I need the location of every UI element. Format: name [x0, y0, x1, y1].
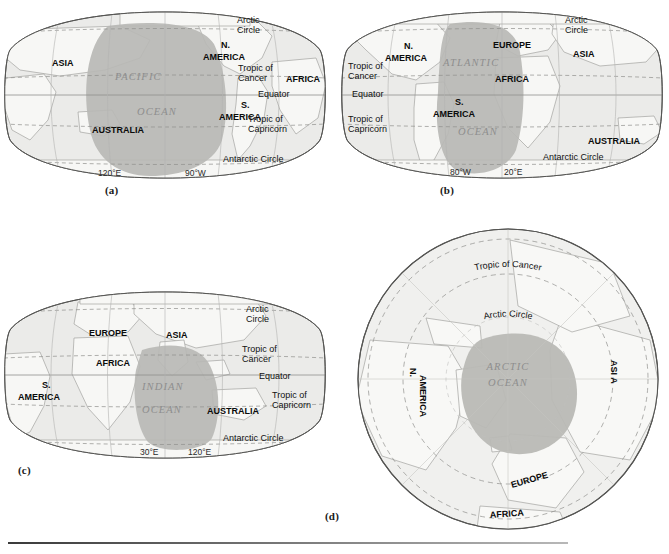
geoline-label-capricorn-1: Tropic of: [348, 114, 383, 124]
geoline-label-arctic-2: Circle: [237, 25, 260, 35]
longitude-label-1: 80°W: [450, 167, 471, 177]
geoline-label-cancer-1: Tropic of: [242, 344, 277, 354]
figure-root: PACIFIC OCEAN ASIA N. AMERICA AFRICA S. …: [0, 0, 669, 554]
ocean-name-line2: OCEAN: [458, 126, 498, 137]
panel-c-map: INDIAN OCEAN EUROPE ASIA AFRICA S. AMERI…: [0, 280, 330, 480]
longitude-label-1: 120°E: [98, 168, 122, 178]
geoline-label-capricorn-2: Capricorn: [348, 124, 387, 134]
panel-d-map: Tropic of Cancer Arctic Circle ARCTIC OC…: [330, 220, 669, 540]
longitude-label-2: 120°E: [188, 447, 212, 457]
continent-label-asia: ASIA: [166, 330, 188, 340]
continent-label-s: S.: [42, 380, 51, 390]
continent-label-australia: AUSTRALIA: [588, 136, 640, 146]
panel-caption-c: (c): [18, 464, 31, 476]
continent-label-europe: EUROPE: [89, 328, 127, 338]
geoline-label-arctic-1: Arctic: [237, 15, 260, 25]
highlight-pacific-ocean: [86, 23, 226, 176]
panel-caption-b: (b): [440, 184, 454, 196]
ocean-name-line1: INDIAN: [141, 381, 184, 392]
geoline-label-antarctic: Antarctic Circle: [543, 152, 604, 162]
highlight-indian-ocean: [135, 346, 219, 450]
geoline-label-equator: Equator: [352, 89, 384, 99]
longitude-label-2: 90°W: [185, 168, 206, 178]
continent-label-s: S.: [455, 97, 464, 107]
panel-a-map: PACIFIC OCEAN ASIA N. AMERICA AFRICA S. …: [0, 0, 330, 200]
continent-label-australia: AUSTRALIA: [92, 125, 144, 135]
continent-label-africa: AFRICA: [495, 74, 529, 84]
geoline-label-arctic-2: Circle: [565, 25, 588, 35]
continent-label-europe: EUROPE: [493, 40, 531, 50]
geoline-label-capricorn-2: Capricorn: [272, 400, 311, 410]
geoline-label-capricorn-2: Capricorn: [248, 124, 287, 134]
continent-label-n: N.: [221, 40, 230, 50]
ocean-name-line1: PACIFIC: [114, 71, 162, 82]
geoline-label-arctic-2: Circle: [246, 314, 269, 324]
panel-caption-a: (a): [105, 184, 118, 196]
geoline-label-equator: Equator: [258, 89, 290, 99]
longitude-label-2: 20°E: [504, 167, 523, 177]
continent-label-america-north: AMERICA: [418, 375, 428, 417]
geoline-label-equator: Equator: [259, 371, 291, 381]
longitude-label-1: 30°E: [140, 447, 159, 457]
continent-label-america-north: AMERICA: [385, 53, 427, 63]
continent-label-asia: ASIA: [52, 58, 74, 68]
ocean-name-line2: OCEAN: [142, 404, 182, 415]
ocean-name-line1: ATLANTIC: [442, 57, 499, 68]
panel-caption-d: (d): [325, 510, 339, 522]
panel-d-arctic: Tropic of Cancer Arctic Circle ARCTIC OC…: [330, 220, 669, 540]
ocean-name-line1: ARCTIC: [486, 361, 530, 372]
geoline-label-cancer-2: Cancer: [242, 354, 271, 364]
continent-label-australia: AUSTRALIA: [207, 406, 259, 416]
geoline-label-capricorn-1: Tropic of: [248, 114, 283, 124]
panel-a-pacific: PACIFIC OCEAN ASIA N. AMERICA AFRICA S. …: [0, 0, 330, 200]
continent-label-america-south: AMERICA: [433, 109, 475, 119]
continent-label-n: N.: [408, 368, 418, 377]
geoline-label-antarctic: Antarctic Circle: [223, 154, 284, 164]
figure-bottom-rule: [8, 542, 568, 544]
continent-label-africa: AFRICA: [96, 358, 130, 368]
continent-label-asia: ASI A: [609, 360, 619, 384]
ocean-name-line2: OCEAN: [137, 106, 177, 117]
continent-label-asia: ASIA: [573, 49, 595, 59]
panel-c-indian: INDIAN OCEAN EUROPE ASIA AFRICA S. AMERI…: [0, 280, 330, 480]
panel-b-atlantic: ATLANTIC OCEAN N. AMERICA EUROPE ASIA AF…: [330, 0, 669, 200]
continent-label-africa: AFRICA: [286, 74, 320, 84]
ocean-name-line2: OCEAN: [488, 377, 528, 388]
geoline-label-capricorn-1: Tropic of: [272, 390, 307, 400]
continent-label-america-south: AMERICA: [18, 392, 60, 402]
panel-b-map: ATLANTIC OCEAN N. AMERICA EUROPE ASIA AF…: [330, 0, 669, 200]
geoline-label-arctic-1: Arctic: [565, 15, 588, 25]
geoline-label-cancer-1: Tropic of: [348, 61, 383, 71]
geoline-label-cancer-1: Tropic of: [238, 63, 273, 73]
continent-label-s: S.: [241, 100, 250, 110]
geoline-label-arctic-1: Arctic: [246, 304, 269, 314]
continent-label-america-north: AMERICA: [203, 52, 245, 62]
continent-label-n: N.: [404, 41, 413, 51]
geoline-label-cancer-2: Cancer: [238, 73, 267, 83]
geoline-label-antarctic: Antarctic Circle: [223, 433, 284, 443]
geoline-label-cancer-2: Cancer: [348, 71, 377, 81]
